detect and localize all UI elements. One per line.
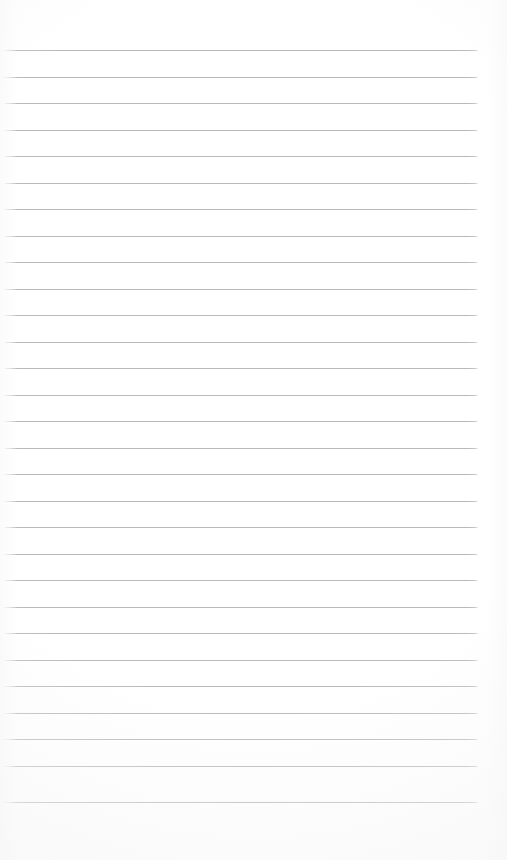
writing-line[interactable] bbox=[3, 636, 478, 662]
writing-line[interactable] bbox=[3, 556, 478, 582]
writing-line[interactable] bbox=[3, 609, 478, 635]
writing-line[interactable] bbox=[3, 450, 478, 476]
writing-line[interactable] bbox=[3, 318, 478, 344]
writing-line[interactable] bbox=[3, 132, 478, 158]
writing-line[interactable] bbox=[3, 106, 478, 132]
writing-line[interactable] bbox=[3, 265, 478, 291]
writing-line[interactable] bbox=[3, 742, 478, 768]
writing-line[interactable] bbox=[3, 689, 478, 715]
writing-line[interactable] bbox=[3, 291, 478, 317]
writing-line[interactable] bbox=[3, 424, 478, 450]
writing-line[interactable] bbox=[3, 778, 478, 804]
writing-line[interactable] bbox=[3, 344, 478, 370]
writing-line[interactable] bbox=[3, 662, 478, 688]
writing-line[interactable] bbox=[3, 159, 478, 185]
writing-line[interactable] bbox=[3, 503, 478, 529]
writing-line[interactable] bbox=[3, 53, 478, 79]
writing-line[interactable] bbox=[3, 185, 478, 211]
writing-line[interactable] bbox=[3, 26, 478, 52]
writing-line[interactable] bbox=[3, 371, 478, 397]
writing-line[interactable] bbox=[3, 715, 478, 741]
writing-line[interactable] bbox=[3, 79, 478, 105]
writing-line[interactable] bbox=[3, 530, 478, 556]
writing-line[interactable] bbox=[3, 583, 478, 609]
writing-line[interactable] bbox=[3, 397, 478, 423]
ruled-lines-container bbox=[0, 0, 507, 860]
ruled-page bbox=[0, 0, 507, 860]
writing-line[interactable] bbox=[3, 238, 478, 264]
writing-line[interactable] bbox=[3, 477, 478, 503]
writing-line[interactable] bbox=[3, 212, 478, 238]
